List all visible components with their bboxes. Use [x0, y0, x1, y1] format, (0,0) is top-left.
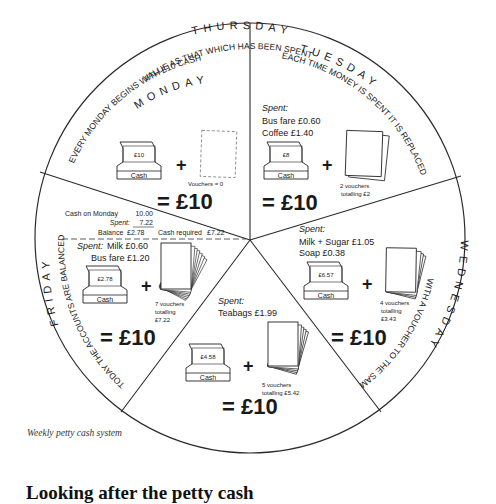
cash-box: £4.58 Cash	[186, 344, 230, 381]
total-monday: = £10	[157, 189, 213, 214]
cash-box: £6.57 Cash	[304, 262, 348, 299]
voucher-stack-icon	[386, 248, 426, 299]
cash-amount: £6.57	[318, 272, 334, 278]
vouchers-count: Vouchers = 0	[188, 181, 224, 187]
total-tuesday: = £10	[262, 190, 318, 215]
cash-label: Cash	[278, 172, 294, 179]
balance-label: Balance	[98, 229, 123, 236]
spent-item: Milk £0.60	[107, 241, 148, 251]
cash-label: Cash	[200, 374, 216, 381]
plus-sign: +	[322, 155, 333, 175]
spent-label: Spent:	[299, 224, 326, 234]
vouchers-count: 5 vouchers	[262, 382, 291, 388]
empty-voucher-icon	[200, 130, 237, 177]
spent-label: Spent:	[77, 241, 104, 251]
day-label-wednesday: WEDNESDAY	[425, 240, 471, 354]
spent-item: Coffee £1.40	[262, 128, 313, 138]
spent-label: Spent:	[110, 219, 130, 227]
cash-required-value: £7.22	[207, 229, 225, 236]
vouchers-total: £3.43	[381, 316, 397, 322]
vouchers-total: totalling	[381, 308, 402, 314]
plus-sign: +	[243, 356, 254, 376]
cash-amount: £4.58	[200, 354, 216, 360]
cash-amount: £8	[283, 152, 290, 158]
spent-item: Teabags £1.99	[218, 308, 277, 318]
spent-label: Spent:	[262, 103, 289, 113]
plus-sign: +	[362, 274, 373, 294]
vouchers-count: 4 vouchers	[380, 300, 409, 306]
spent-item: Milk + Sugar £1.05	[299, 237, 374, 247]
vouchers-count: 2 vouchers	[340, 183, 369, 189]
cash-label: Cash	[97, 296, 113, 303]
cash-required-label: Cash required	[158, 229, 202, 237]
voucher-stack-icon	[268, 322, 309, 374]
cash-box: £10 Cash	[117, 142, 161, 179]
total-friday: = £10	[100, 325, 156, 350]
section-heading: Looking after the petty cash	[26, 482, 254, 504]
segment-friday: FRIDAY TODAY THE ACCOUNTS ARE BALANCED C…	[39, 210, 246, 390]
voucher-stack-icon	[345, 130, 389, 180]
segment-thursday: VALUE AS THAT WHICH HAS BEEN SPENT THURS…	[141, 19, 314, 419]
segment-tuesday: TUESDAY EACH TIME MONEY IS SPENT IT IS R…	[262, 42, 429, 215]
vouchers-total: £7.22	[155, 317, 171, 323]
plus-sign: +	[176, 155, 187, 175]
spent-item: Bus fare £1.20	[91, 253, 150, 263]
segment-wednesday: WEDNESDAY WITH A VOUCHER TO THE SAME Spe…	[0, 0, 471, 390]
vouchers-total: totalling	[155, 309, 176, 315]
balance-calculation: Cash on Monday 10.00 Spent: 7.22 Balance…	[62, 210, 246, 239]
rule-text-monday: EVERY MONDAY BEGINS WITH £10 CASH	[67, 53, 203, 165]
spent-value: 7.22	[139, 219, 153, 226]
rule-text-thursday: VALUE AS THAT WHICH HAS BEEN SPENT	[141, 41, 314, 84]
vouchers-total: totalling £2	[341, 191, 371, 197]
total-thursday: = £10	[222, 394, 278, 419]
cash-label: Cash	[318, 292, 334, 299]
spent-item: Bus fare £0.60	[262, 116, 321, 126]
figure-caption: Weekly petty cash system	[27, 428, 122, 438]
day-label-thursday: THURSDAY	[190, 19, 293, 37]
cash-box: £2.78 Cash	[83, 266, 127, 303]
balance-value: £2.78	[127, 229, 145, 236]
voucher-stack-icon	[159, 243, 207, 300]
plus-sign: +	[141, 276, 152, 296]
cash-amount: £10	[134, 152, 145, 158]
total-wednesday: = £10	[331, 325, 387, 350]
cash-on-monday-value: 10.00	[135, 210, 153, 217]
spent-label: Spent:	[218, 296, 245, 306]
cash-on-monday-label: Cash on Monday	[65, 210, 118, 218]
vouchers-count: 7 vouchers	[155, 301, 184, 307]
cash-label: Cash	[131, 172, 147, 179]
spent-item: Soap £0.38	[299, 248, 345, 258]
cash-box: £8 Cash	[264, 142, 308, 179]
cash-amount: £2.78	[97, 276, 113, 282]
day-label-friday: FRIDAY	[39, 256, 60, 327]
